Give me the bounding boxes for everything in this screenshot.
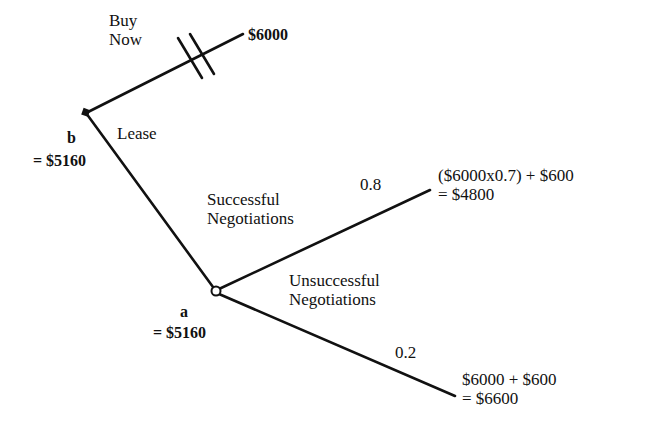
successful-label: Successful Negotiations <box>207 190 294 228</box>
node-a-name: a <box>180 302 188 321</box>
lease-label: Lease <box>117 124 157 143</box>
tree-lines <box>0 0 656 435</box>
successful-outcome-line1: ($6000x0.7) + $600 <box>438 166 574 185</box>
node-b-name: b <box>67 128 76 147</box>
successful-probability: 0.8 <box>360 175 381 194</box>
buy-now-label-line2: Now <box>109 30 142 49</box>
unsuccessful-label: Unsuccessful Negotiations <box>289 271 380 309</box>
successful-label-line2: Negotiations <box>207 209 294 228</box>
unsuccessful-label-line2: Negotiations <box>289 290 380 309</box>
unsuccessful-outcome-line2: = $6600 <box>462 389 557 408</box>
chance-node-a <box>212 287 221 296</box>
unsuccessful-outcome: $6000 + $600 = $6600 <box>462 370 557 408</box>
buy-now-label-line1: Buy <box>109 11 142 30</box>
unsuccessful-label-line1: Unsuccessful <box>289 271 380 290</box>
buy-now-outcome: $6000 <box>248 25 288 44</box>
prune-mark-1 <box>178 38 202 78</box>
unsuccessful-branch <box>219 294 455 396</box>
node-a-value: = $5160 <box>153 323 206 342</box>
successful-outcome: ($6000x0.7) + $600 = $4800 <box>438 166 574 204</box>
buy-now-label: Buy Now <box>109 11 142 49</box>
unsuccessful-outcome-line1: $6000 + $600 <box>462 370 557 389</box>
successful-label-line1: Successful <box>207 190 294 209</box>
prune-mark-2 <box>190 34 214 74</box>
successful-outcome-line2: = $4800 <box>438 185 574 204</box>
node-b-value: = $5160 <box>33 151 86 170</box>
decision-tree-diagram: Buy Now $6000 b = $5160 Lease Successful… <box>0 0 656 435</box>
unsuccessful-probability: 0.2 <box>395 343 416 362</box>
